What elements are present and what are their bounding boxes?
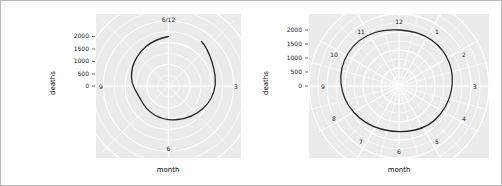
y-tick-label: 2000 bbox=[59, 32, 89, 39]
theta-label-9: 9 bbox=[321, 83, 325, 90]
plot-graphics bbox=[1, 1, 251, 185]
y-tick-label: 1500 bbox=[59, 45, 89, 52]
theta-label-9: 9 bbox=[99, 83, 103, 90]
y-tick-marks bbox=[92, 37, 95, 87]
y-tick-label: 500 bbox=[59, 70, 89, 77]
theta-label-12: 12 bbox=[395, 18, 403, 25]
theta-label-3: 3 bbox=[473, 83, 477, 90]
left-polar-plot: 2000 1500 1000 500 0 6/12 3 6 9 deaths m… bbox=[1, 1, 251, 185]
theta-label-8: 8 bbox=[332, 115, 336, 122]
x-axis-title: month bbox=[138, 166, 198, 174]
theta-label-6: 6 bbox=[167, 145, 171, 152]
theta-label-1: 1 bbox=[435, 28, 439, 35]
y-tick-label: 0 bbox=[59, 82, 89, 89]
figure-canvas: 2000 1500 1000 500 0 6/12 3 6 9 deaths m… bbox=[0, 0, 502, 186]
y-tick-label: 1000 bbox=[59, 57, 89, 64]
y-tick-label: 500 bbox=[272, 68, 302, 75]
theta-label-10: 10 bbox=[330, 51, 338, 58]
theta-label-2: 2 bbox=[462, 51, 466, 58]
theta-label-11: 11 bbox=[357, 28, 365, 35]
theta-label-5: 5 bbox=[435, 138, 439, 145]
y-axis-title: deaths bbox=[49, 53, 57, 113]
theta-label-7: 7 bbox=[359, 138, 363, 145]
theta-label-6-12: 6/12 bbox=[162, 16, 175, 23]
y-tick-label: 2000 bbox=[272, 26, 302, 33]
y-tick-marks bbox=[305, 30, 308, 86]
theta-label-3: 3 bbox=[234, 83, 238, 90]
y-tick-label: 1000 bbox=[272, 54, 302, 61]
y-tick-label: 0 bbox=[272, 82, 302, 89]
y-axis-title: deaths bbox=[262, 53, 270, 113]
right-polar-plot: 2000 1500 1000 500 0 12 1 2 3 4 5 6 7 8 … bbox=[251, 1, 501, 185]
theta-label-4: 4 bbox=[462, 115, 466, 122]
x-axis-title: month bbox=[369, 166, 429, 174]
y-tick-label: 1500 bbox=[272, 40, 302, 47]
theta-label-6: 6 bbox=[397, 148, 401, 155]
polar-grid bbox=[76, 0, 262, 179]
